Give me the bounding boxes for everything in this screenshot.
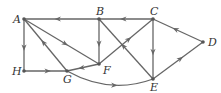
node-label-E: E xyxy=(149,81,158,93)
node-F xyxy=(97,62,101,66)
edge-A-F xyxy=(24,19,99,64)
edge-E-D xyxy=(153,42,203,79)
edge-F-G xyxy=(67,64,99,71)
node-label-C: C xyxy=(150,5,159,18)
node-A xyxy=(22,17,26,21)
edge-D-C xyxy=(153,19,203,42)
node-label-A: A xyxy=(12,13,21,26)
node-label-H: H xyxy=(11,65,22,78)
node-H xyxy=(22,69,26,73)
edge-G-A xyxy=(24,19,67,71)
edge-F-C xyxy=(99,19,153,64)
node-label-F: F xyxy=(102,64,111,77)
node-label-D: D xyxy=(207,36,217,49)
node-D xyxy=(201,40,205,44)
node-label-G: G xyxy=(63,73,72,86)
node-label-B: B xyxy=(95,5,104,18)
directed-graph: ABCDEFGH xyxy=(0,0,221,93)
